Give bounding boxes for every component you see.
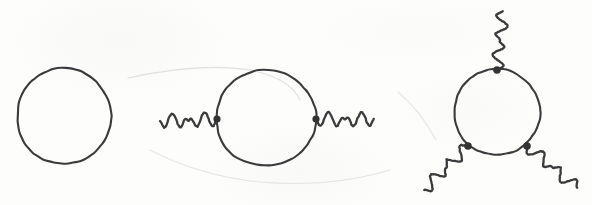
photon-leg-bottom-right [527,146,578,188]
fermion-loop [216,70,316,166]
three-point-photon-vertex [424,11,577,191]
photon-leg-top [493,11,508,70]
fermion-loop [18,68,112,164]
photon-leg-left [160,113,217,128]
two-point-photon-self-energy [160,70,374,166]
diagram-shapes-layer [18,11,578,191]
diagram-vector-layer [0,0,592,205]
feynman-diagram-figure [0,0,592,205]
vertex-top [493,66,501,74]
paper-smudge-layer [128,67,436,183]
photon-leg-right [316,112,374,126]
vertex-bottom-right [523,142,531,150]
vertex-left [213,115,220,122]
photon-leg-bottom-left [424,145,468,192]
fermion-loop [455,69,541,155]
closed-fermion-loop [18,68,112,164]
vertex-bottom-left [464,142,472,150]
vertex-right [312,115,319,122]
